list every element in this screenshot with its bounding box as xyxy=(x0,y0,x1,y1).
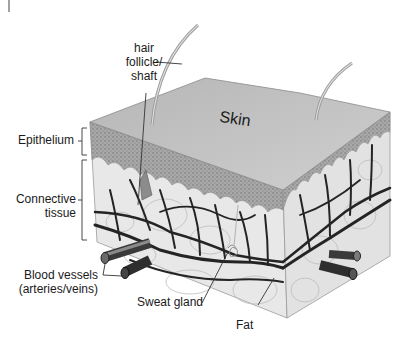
blood-vessels-label: Blood vessels (arteries/veins) xyxy=(6,268,98,296)
hair-follicle-label: hair follicle/ shaft xyxy=(118,41,170,83)
epithelium-label: Epithelium xyxy=(10,133,74,147)
sweat-gland-label: Sweat gland xyxy=(137,295,203,309)
connective-tissue-label: Connective tissue xyxy=(8,192,76,220)
skin-cross-section-illustration xyxy=(0,0,409,352)
fat-label: Fat xyxy=(236,318,253,332)
